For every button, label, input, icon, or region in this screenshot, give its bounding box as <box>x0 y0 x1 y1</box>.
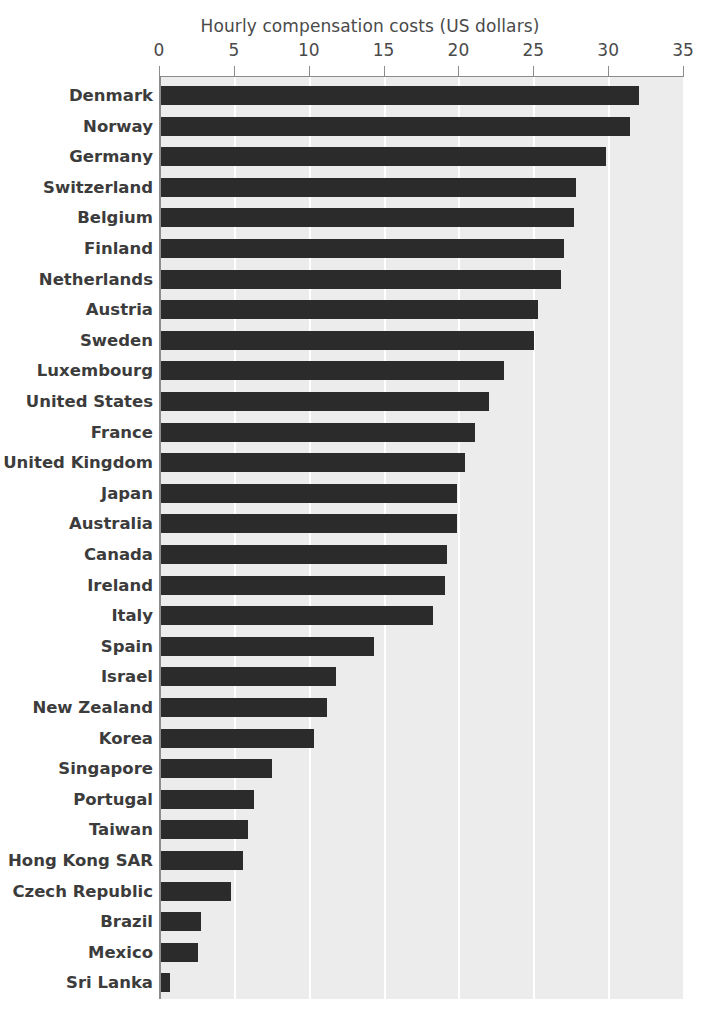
bar-category-label: Czech Republic <box>12 882 153 901</box>
bar-row: France <box>0 423 704 442</box>
x-tick-label-0: 0 <box>154 40 165 60</box>
bar <box>161 208 574 227</box>
bar-row: Switzerland <box>0 178 704 197</box>
bar-row: Austria <box>0 300 704 319</box>
bar-row: Portugal <box>0 790 704 809</box>
bar <box>161 606 433 625</box>
bar-row: Belgium <box>0 208 704 227</box>
bar-category-label: France <box>91 423 153 442</box>
bar-category-label: Norway <box>83 117 153 136</box>
bar-row: Sweden <box>0 331 704 350</box>
bar-row: Japan <box>0 484 704 503</box>
bar-row: Finland <box>0 239 704 258</box>
bar <box>161 820 248 839</box>
bar <box>161 239 564 258</box>
bar-category-label: Switzerland <box>43 178 153 197</box>
x-tick-label-20: 20 <box>448 40 470 60</box>
bar-category-label: Denmark <box>69 86 153 105</box>
bar <box>161 392 489 411</box>
bar-row: Italy <box>0 606 704 625</box>
bar-category-label: Netherlands <box>39 270 153 289</box>
bar-category-label: Ireland <box>87 576 153 595</box>
chart-title-text: Hourly compensation costs (US dollars) <box>201 16 540 36</box>
bar-row: Spain <box>0 637 704 656</box>
bar-row: Mexico <box>0 943 704 962</box>
bar-row: Luxembourg <box>0 361 704 380</box>
bar <box>161 943 198 962</box>
bar-category-label: United States <box>26 392 153 411</box>
bar-category-label: Portugal <box>73 790 153 809</box>
bar <box>161 147 606 166</box>
bar-category-label: Canada <box>84 545 153 564</box>
bar <box>161 361 504 380</box>
bar <box>161 698 327 717</box>
bar <box>161 576 445 595</box>
bar-category-label: Korea <box>99 729 153 748</box>
x-tick-label-30: 30 <box>597 40 619 60</box>
bar-row: New Zealand <box>0 698 704 717</box>
bar <box>161 484 457 503</box>
bar-row: Israel <box>0 667 704 686</box>
bar-category-label: Japan <box>101 484 153 503</box>
bar <box>161 178 576 197</box>
bar-category-label: Italy <box>111 606 153 625</box>
bar <box>161 545 447 564</box>
x-tick-label-25: 25 <box>522 40 544 60</box>
bar-row: Australia <box>0 514 704 533</box>
bar-category-label: Taiwan <box>89 820 153 839</box>
bar <box>161 117 630 136</box>
bar-row: Germany <box>0 147 704 166</box>
bar-row: Norway <box>0 117 704 136</box>
bar-chart: Hourly compensation costs (US dollars) 0… <box>0 0 704 1017</box>
bar <box>161 973 170 992</box>
bar-row: Taiwan <box>0 820 704 839</box>
bar <box>161 912 201 931</box>
bar-category-label: Australia <box>69 514 153 533</box>
bar-category-label: Sweden <box>80 331 153 350</box>
bar <box>161 637 374 656</box>
x-tick-mark-35 <box>683 66 684 77</box>
bar-category-label: Spain <box>101 637 153 656</box>
bar-category-label: Germany <box>69 147 153 166</box>
bar-row: Netherlands <box>0 270 704 289</box>
bar <box>161 270 561 289</box>
bar-row: Korea <box>0 729 704 748</box>
bar <box>161 851 243 870</box>
bar <box>161 514 457 533</box>
bar <box>161 423 475 442</box>
bar <box>161 790 254 809</box>
bar <box>161 453 465 472</box>
bar-row: Denmark <box>0 86 704 105</box>
bar-category-label: Austria <box>86 300 153 319</box>
bar-category-label: Hong Kong SAR <box>8 851 153 870</box>
bar-category-label: Belgium <box>77 208 153 227</box>
bar <box>161 86 639 105</box>
bar <box>161 882 231 901</box>
bar <box>161 729 314 748</box>
bar-category-label: Luxembourg <box>37 361 153 380</box>
bar-row: Ireland <box>0 576 704 595</box>
bar-row: Czech Republic <box>0 882 704 901</box>
bar-category-label: Finland <box>84 239 153 258</box>
x-axis-tick-labels: 05101520253035 <box>0 40 704 64</box>
bar-row: Brazil <box>0 912 704 931</box>
bar-category-label: New Zealand <box>32 698 153 717</box>
bar <box>161 667 336 686</box>
bar-category-label: Sri Lanka <box>66 973 153 992</box>
bar <box>161 759 272 778</box>
x-tick-label-10: 10 <box>298 40 320 60</box>
bar-category-label: Singapore <box>58 759 153 778</box>
x-tick-label-15: 15 <box>373 40 395 60</box>
bar-row: United States <box>0 392 704 411</box>
bar-row: Hong Kong SAR <box>0 851 704 870</box>
chart-title: Hourly compensation costs (US dollars) <box>0 16 704 36</box>
bar <box>161 331 534 350</box>
bar-category-label: United Kingdom <box>3 453 153 472</box>
x-tick-label-35: 35 <box>672 40 694 60</box>
x-tick-label-5: 5 <box>228 40 239 60</box>
bar-row: Canada <box>0 545 704 564</box>
bar-row: Singapore <box>0 759 704 778</box>
bar-category-label: Brazil <box>100 912 153 931</box>
bar-row: United Kingdom <box>0 453 704 472</box>
bar-category-label: Mexico <box>88 943 153 962</box>
